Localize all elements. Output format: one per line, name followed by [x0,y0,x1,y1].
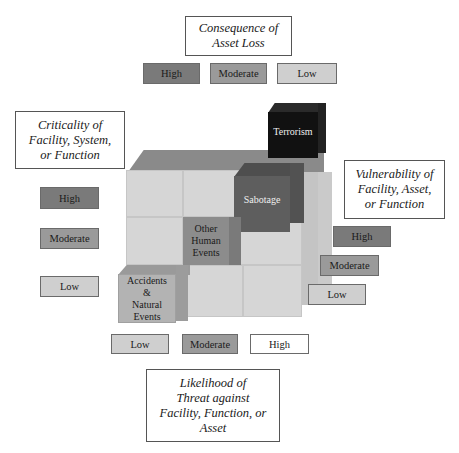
vulnerability-level-high: High [333,226,391,247]
title-line: Asset [160,421,267,436]
cube-cell [126,217,183,265]
cube-cell [186,265,243,317]
criticality-level-high: High [40,187,99,209]
criticality-level-low: Low [40,276,99,297]
vulnerability-level-low: Low [308,284,366,305]
consequence-axis-title: Consequence of Asset Loss [185,16,292,56]
likelihood-axis-title: Likelihood of Threat against Facility, F… [146,369,280,442]
label-line: Human [191,235,220,247]
label-line: Natural [127,299,167,311]
vulnerability-axis-title: Vulnerability of Facility, Asset, or Fun… [344,160,445,219]
title-line: Threat against [160,391,267,406]
sabotage-cube-side [290,163,304,223]
sabotage-label: Sabotage [234,180,290,220]
title-line: Facility, System, [29,133,111,148]
likelihood-level-low: Low [111,334,169,354]
consequence-level-moderate: Moderate [210,63,267,84]
title-line: Likelihood of [160,376,267,391]
criticality-level-moderate: Moderate [40,228,99,249]
cube-cell [243,265,302,317]
title-line: Vulnerability of [356,167,434,182]
consequence-level-high: High [143,63,200,84]
terrorism-cube-side [318,103,326,153]
criticality-axis-title: Criticality of Facility, System, or Func… [15,111,125,169]
title-line: Facility, Function, or [160,406,267,421]
title-line: Consequence of [199,21,279,36]
title-line: or Function [356,197,434,212]
label-line: Events [127,311,167,323]
label-line: Accidents [127,275,167,287]
terrorism-label: Terrorism [268,112,318,152]
accidents-label: Accidents & Natural Events [118,274,176,323]
title-line: Criticality of [29,118,111,133]
consequence-level-low: Low [277,63,337,84]
label-line: Other [191,223,220,235]
other-human-events-cube-side [229,217,241,265]
vulnerability-level-moderate: Moderate [320,255,379,276]
title-line: or Function [29,148,111,163]
label-line: & [127,287,167,299]
label-line: Events [191,247,220,259]
cube-cell [183,170,240,217]
title-line: Asset Loss [199,36,279,51]
likelihood-level-high: High [250,334,309,354]
other-human-events-label: Other Human Events [183,217,229,265]
likelihood-level-moderate: Moderate [182,334,238,354]
cube-cell [126,170,183,217]
title-line: Facility, Asset, [356,182,434,197]
accidents-cube-side [176,265,188,321]
